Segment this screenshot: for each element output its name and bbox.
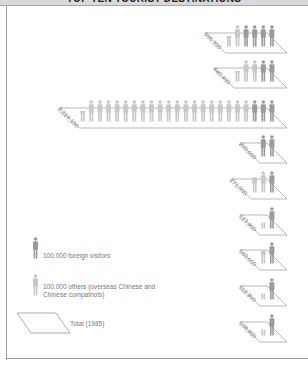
person-foreign-icon [269, 314, 274, 335]
legend-total-label: Total (1985) [70, 320, 104, 328]
total-plane-icon [16, 312, 71, 334]
person-foreign-icon [32, 237, 39, 259]
person-others-icon [32, 274, 39, 296]
legend-foreign-label: 100,000 foreign visitors [43, 252, 110, 260]
person-others-partial-icon [261, 314, 266, 335]
legend-others-label: 100,000 others (overseas Chinese and Chi… [43, 283, 173, 299]
